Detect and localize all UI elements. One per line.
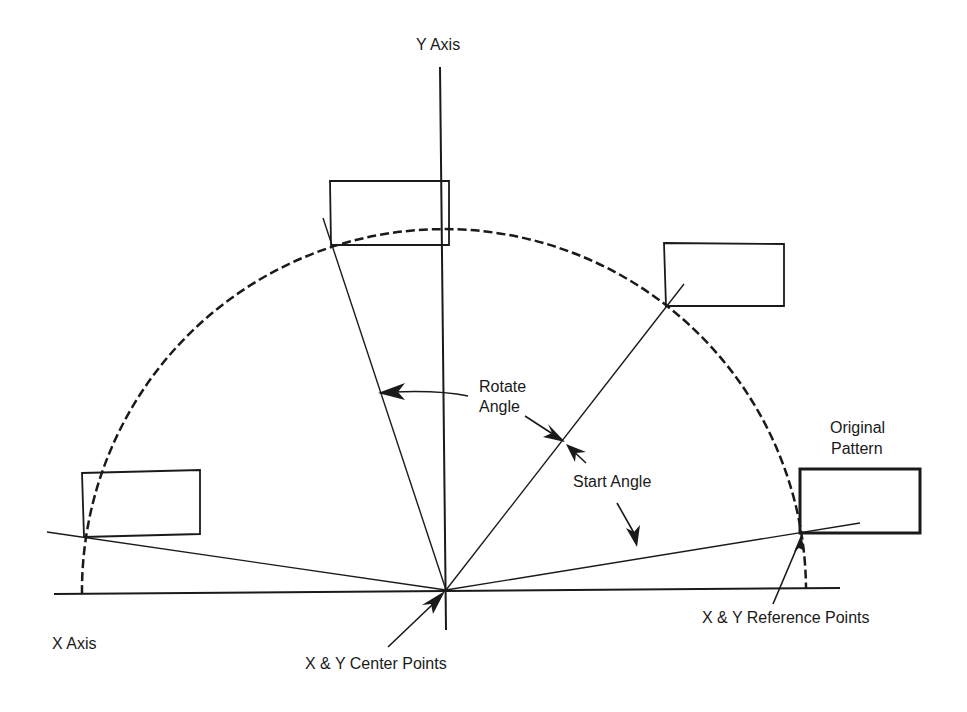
start-angle-arrowhead-icon <box>626 525 640 547</box>
center-points-pointer <box>388 605 432 647</box>
center-points-label: X & Y Center Points <box>305 654 447 673</box>
original-pattern-label-line2: Pattern <box>831 439 883 458</box>
rotate-angle-label-line2: Angle <box>479 397 520 416</box>
reference-points-pointer <box>773 545 798 604</box>
reference-points-label: X & Y Reference Points <box>702 608 870 627</box>
y-axis-label: Y Axis <box>416 35 460 54</box>
pattern-box-top <box>330 181 449 245</box>
rotation-diagram <box>0 0 967 712</box>
radial-line-upper-right <box>446 284 684 590</box>
start-angle-arrowhead-upper-icon <box>543 424 565 442</box>
y-axis-line <box>440 67 446 630</box>
pattern-box-left <box>82 470 200 537</box>
pattern-box-upper-right <box>664 243 784 306</box>
radial-line-left <box>47 532 446 590</box>
start-angle-pointer <box>617 503 634 533</box>
x-axis-label: X Axis <box>52 634 96 653</box>
radial-line-top <box>323 218 446 590</box>
original-pattern-label-line1: Original <box>830 418 885 437</box>
rotate-angle-label-line1: Rotate <box>479 377 526 396</box>
rotate-angle-arrow <box>392 392 468 397</box>
radial-line-start <box>446 523 860 590</box>
start-angle-label: Start Angle <box>573 472 651 491</box>
reference-points-arrowhead-icon <box>794 535 805 552</box>
